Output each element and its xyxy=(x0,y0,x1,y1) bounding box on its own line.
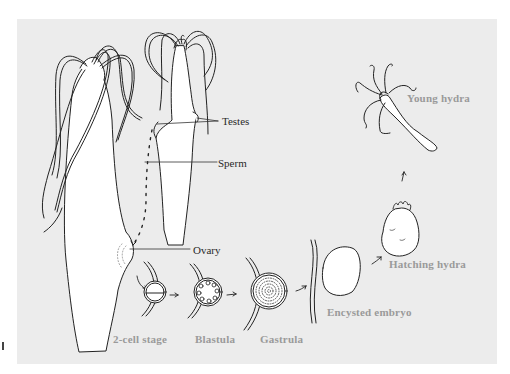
young-hydra-illustration xyxy=(356,64,437,151)
arrow-to-blastula xyxy=(170,293,178,297)
label-hatching-hydra: Hatching hydra xyxy=(389,258,466,270)
label-blastula: Blastula xyxy=(195,333,235,345)
label-encysted-embryo: Encysted embryo xyxy=(327,306,412,318)
female-hydra-illustration xyxy=(42,46,142,352)
male-hydra-illustration xyxy=(131,31,216,245)
two-cell-stage-illustration xyxy=(142,262,166,316)
gastrula-illustration xyxy=(244,258,287,330)
hatching-hydra-illustration xyxy=(382,201,419,256)
illustration-canvas xyxy=(0,0,510,374)
hydra-life-cycle-figure: Testes Sperm Ovary 2-cell stage Blastula… xyxy=(0,0,510,374)
label-ovary: Ovary xyxy=(193,244,221,256)
arrow-to-gastrula xyxy=(227,292,236,296)
sperm-trail xyxy=(133,130,152,245)
label-testes: Testes xyxy=(222,115,249,127)
label-sperm: Sperm xyxy=(218,157,247,169)
arrow-to-encysted xyxy=(296,286,306,291)
label-gastrula: Gastrula xyxy=(260,333,303,345)
arrow-to-young xyxy=(402,172,406,181)
label-two-cell-stage: 2-cell stage xyxy=(113,333,167,345)
label-young-hydra: Young hydra xyxy=(407,92,470,104)
arrow-to-hatching xyxy=(372,257,381,264)
blastula-illustration xyxy=(188,264,222,318)
